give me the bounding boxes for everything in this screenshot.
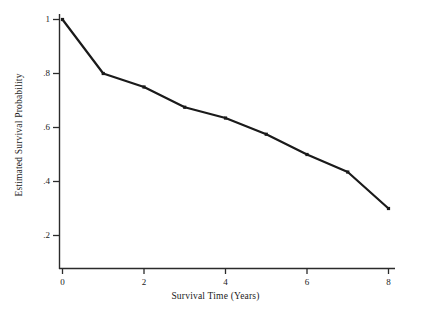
y-axis-title: Estimated Survival Probability — [14, 73, 24, 196]
x-tick-label-2: 2 — [142, 277, 147, 287]
data-point-marker — [346, 170, 349, 173]
plot-area — [0, 0, 431, 313]
x-tick-label-0: 0 — [60, 277, 65, 287]
data-point-marker — [102, 72, 105, 75]
data-point-marker — [305, 153, 308, 156]
y-axis-ticks — [53, 20, 59, 236]
survival-curve-figure: 1 .8 .6 .4 .2 0 2 4 6 8 Survival Time (Y… — [0, 0, 431, 313]
x-tick-label-6: 6 — [305, 277, 310, 287]
x-tick-label-4: 4 — [223, 277, 228, 287]
survival-curve-line — [63, 20, 389, 209]
y-tick-label-02: .2 — [32, 230, 50, 240]
y-tick-label-1: 1 — [32, 14, 50, 24]
y-tick-label-08: .8 — [32, 68, 50, 78]
x-axis-title: Survival Time (Years) — [0, 291, 431, 301]
data-point-marker — [183, 106, 186, 109]
data-point-marker — [387, 207, 390, 210]
y-tick-label-06: .6 — [32, 122, 50, 132]
data-point-marker — [61, 18, 64, 21]
y-tick-label-04: .4 — [32, 176, 50, 186]
x-tick-label-8: 8 — [386, 277, 391, 287]
data-point-marker — [224, 116, 227, 119]
data-point-marker — [142, 85, 145, 88]
y-axis-title-wrapper: Estimated Survival Probability — [11, 0, 27, 270]
data-point-marker — [265, 133, 268, 136]
survival-curve-markers — [61, 18, 390, 210]
